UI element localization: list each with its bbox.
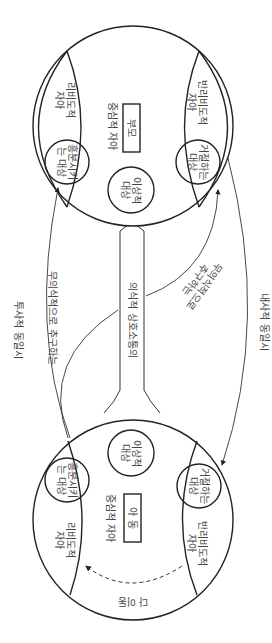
introjective-arrow <box>222 158 248 465</box>
top-rejecting-object-label: 거절하는 대상 <box>187 144 209 180</box>
introjective-identification-label: 내사적 동일시 <box>259 293 270 350</box>
unconscious-left-curve <box>61 310 118 438</box>
projective-identification-label: 투사적 동일시 <box>13 301 24 358</box>
top-antilibidinal-ego-label: 반리비도적 자아 <box>186 80 208 125</box>
bottom-antilibidinal-ego-label: 반리비도적 자아 <box>186 521 208 566</box>
conscious-communication-label: 의식적 상호소통의 <box>127 282 138 357</box>
top-libidinal-ego-label: 리비도적 자아 <box>54 82 76 118</box>
bottom-central-ego-label: 중심적 자아 <box>105 494 116 542</box>
unconscious-seek-left-label: 무의식적으로 추구하는 <box>47 271 58 364</box>
bottom-ideal-object-label: 이상적 대상 <box>120 440 142 467</box>
bottom-exciting-object-label: 흥분시키 는 대상 <box>56 462 78 498</box>
bottom-libidinal-ego-label: 리비도적 자아 <box>54 522 76 558</box>
top-central-ego-label: 중심적 자아 <box>107 102 118 150</box>
bottom-rejecting-object-label: 거절하는 대상 <box>188 468 210 504</box>
top-ideal-object-label: 이상적 대상 <box>120 177 142 204</box>
top-parent-box-label: 부모 <box>126 119 137 137</box>
bottom-libido-move-label: 다 이동 <box>118 596 148 607</box>
bottom-child-box-label: 아 동 <box>127 507 138 528</box>
top-exciting-object-label: 흥분시키 는 대상 <box>56 144 78 180</box>
